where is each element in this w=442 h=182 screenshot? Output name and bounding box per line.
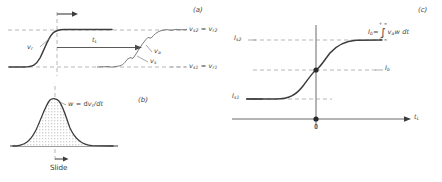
integral-rest: w dt [395, 28, 410, 36]
i-s1-sub: s1 [234, 95, 240, 100]
v-a-label: va [154, 48, 161, 55]
t-l-sub: L [95, 39, 98, 44]
x-axis-sub: L [417, 116, 420, 121]
panel-c-tag: (c) [418, 6, 427, 14]
figure-container: (a) vr va vs tL v_s2 = v_r2 vs2 = vr2 v_… [0, 0, 442, 182]
upper-level-label: v_s2 = v_r2 vs2 = vr2 [189, 26, 218, 33]
panel-b-tag: (b) [138, 96, 148, 104]
integral-limits: + ∞∫− ∞ [379, 22, 388, 43]
i-s2-sub: s2 [236, 37, 242, 42]
i-s1-label: Is1 [232, 93, 240, 100]
sample-response-curve [97, 29, 187, 67]
slide-arrow-head [63, 157, 69, 162]
panel-c-x-axis-label: tL [414, 114, 419, 121]
v-a-sub: a [158, 50, 161, 55]
reference-response-curve [9, 30, 112, 67]
shift-direction-arrow-head [72, 11, 78, 17]
weight-numerator-sub: r [92, 103, 94, 108]
upper-level-v-s2: vs2 [189, 25, 199, 33]
weight-equals: = d [76, 100, 88, 108]
lower-level-v-r1: vr1 [209, 62, 218, 70]
lower-level-label: v_s1 = v_r1 vs1 = vr1 [189, 63, 218, 70]
sigmoid-midpoint-marker [313, 67, 318, 72]
slide-axis-label: Slide [50, 163, 68, 172]
v-r-label: vr [27, 44, 33, 51]
t-l-label: tL [92, 37, 97, 44]
upper-level-v-r2: vr2 [209, 25, 218, 33]
panel-a-tag: (a) [193, 6, 203, 14]
lower-level-v-s1: vs1 [189, 62, 199, 70]
v-s-sub: s [154, 60, 157, 65]
origin-marker [313, 116, 318, 121]
integral-sign: ∫ [379, 27, 388, 39]
integral-expression: Ib=+ ∞∫− ∞vaw dt [368, 22, 409, 43]
v-a-leader-line [146, 45, 152, 52]
i-b-sub: b [387, 67, 390, 72]
panel-c-x-axis-arrow-head [404, 116, 411, 122]
origin-label: 0 [314, 124, 318, 131]
weight-function-label: w = dvr/dt [68, 101, 103, 108]
integral-lhs-sub: b [370, 31, 373, 36]
upper-level-equals: = [201, 25, 207, 33]
i-b-label: Ib [385, 65, 390, 72]
integral-integrand: v [388, 28, 392, 36]
v-s-leader-line [137, 56, 148, 62]
integral-integrand-sub: a [392, 31, 395, 36]
weight-base: w [68, 100, 74, 108]
v-s-label: vs [150, 58, 157, 65]
v-r-sub: r [31, 46, 33, 51]
weight-denominator: /dt [94, 100, 103, 108]
lower-level-equals: = [201, 62, 207, 70]
i-s2-label: Is2 [234, 35, 242, 42]
